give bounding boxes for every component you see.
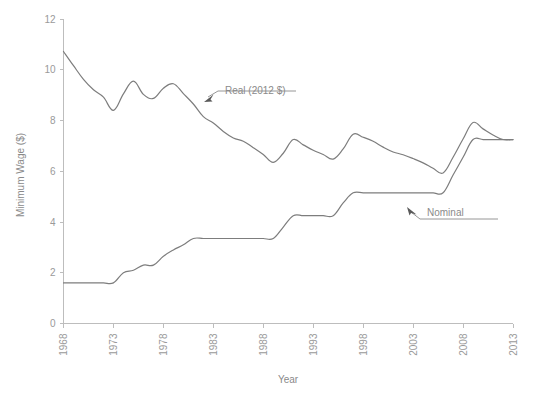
y-tick-label: 8 <box>50 115 56 126</box>
y-tick-label: 0 <box>50 318 56 329</box>
x-tick-label: 1968 <box>58 333 69 356</box>
annotation-label-real: Real (2012 $) <box>225 85 286 96</box>
x-tick-label: 2003 <box>408 333 419 356</box>
x-tick-label: 1983 <box>208 333 219 356</box>
y-axis-title: Minimum Wage ($) <box>15 133 26 217</box>
x-tick-label: 1988 <box>258 333 269 356</box>
y-tick-label: 4 <box>50 217 56 228</box>
x-tick-label: 1973 <box>108 333 119 356</box>
minimum-wage-line-chart: 024681012 Minimum Wage ($) 1968197319781… <box>0 0 533 397</box>
x-tick-label: 1993 <box>308 333 319 356</box>
x-tick-label: 1998 <box>358 333 369 356</box>
y-tick-label: 12 <box>44 14 56 25</box>
x-tick-label: 2013 <box>508 333 519 356</box>
chart-canvas: 024681012 Minimum Wage ($) 1968197319781… <box>0 0 533 397</box>
y-tick-label: 6 <box>50 166 56 177</box>
y-tick-label: 2 <box>50 267 56 278</box>
x-axis-title: Year <box>278 374 299 385</box>
annotation-label-nominal: Nominal <box>427 207 464 218</box>
x-tick-label: 2008 <box>458 333 469 356</box>
x-tick-label: 1978 <box>158 333 169 356</box>
y-tick-label: 10 <box>44 64 56 75</box>
